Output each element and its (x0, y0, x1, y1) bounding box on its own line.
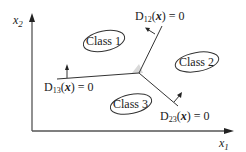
x-axis-label: x1 (218, 136, 229, 152)
x-axis-arrow-icon (224, 128, 234, 134)
class-1-label: Class 1 (86, 34, 121, 48)
class-3: Class 3 (108, 90, 153, 117)
d12-normal-arrowhead-icon (145, 28, 150, 33)
decision-boundary-diagram: x2 x1 D12(x) = 0 D13(x) (0, 0, 246, 152)
y-axis-label: x2 (12, 13, 23, 29)
class-3-label: Class 3 (113, 97, 148, 111)
d13-normal-arrowhead-icon (65, 64, 69, 70)
boundary-d12 (139, 26, 162, 73)
d12-label: D12(x) = 0 (135, 9, 184, 24)
y-axis-arrow-icon (29, 13, 35, 22)
class-2-label: Class 2 (179, 55, 214, 69)
class-1: Class 1 (81, 27, 126, 55)
boundary-d13 (57, 64, 139, 79)
d13-label: D13(x) = 0 (44, 80, 93, 95)
d23-label: D23(x) = 0 (160, 109, 209, 124)
class-2: Class 2 (174, 49, 221, 75)
